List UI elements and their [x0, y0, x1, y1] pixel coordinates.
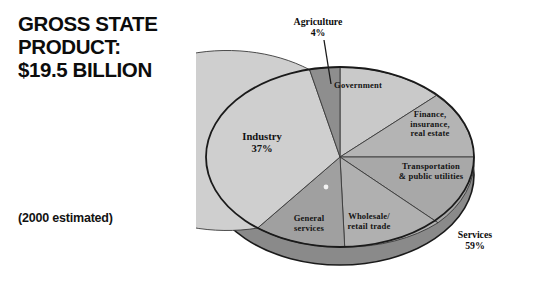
pie-chart: Government Finance, insurance, real esta…	[196, 2, 533, 281]
label-agriculture-percent: 4%	[272, 27, 364, 38]
label-services-percent: 59%	[442, 240, 508, 251]
label-industry-name: Industry	[224, 131, 300, 143]
label-general-services: General services	[276, 214, 342, 233]
label-wholesale-line-2: retail trade	[332, 222, 406, 232]
label-wholesale-retail-trade: Wholesale/ retail trade	[332, 212, 406, 231]
label-government-text: Government	[318, 81, 398, 91]
label-industry-percent: 37%	[224, 143, 300, 155]
label-general-services-line-2: services	[276, 224, 342, 234]
label-transportation-line-2: & public utilities	[372, 172, 490, 182]
label-finance-line-3: real estate	[392, 129, 468, 139]
estimate-note: (2000 estimated)	[18, 211, 113, 225]
chart-page: GROSS STATE PRODUCT: $19.5 BILLION (2000…	[0, 0, 533, 281]
label-finance-insurance-real-estate: Finance, insurance, real estate	[392, 110, 468, 139]
label-services: Services 59%	[442, 229, 508, 251]
highlight-dot-icon	[324, 185, 329, 190]
label-agriculture-name: Agriculture	[272, 16, 364, 27]
label-industry: Industry 37%	[224, 131, 300, 155]
label-agriculture: Agriculture 4%	[272, 16, 364, 38]
label-services-name: Services	[442, 229, 508, 240]
label-government: Government	[318, 81, 398, 91]
label-transportation-public-utilities: Transportation & public utilities	[372, 162, 490, 181]
